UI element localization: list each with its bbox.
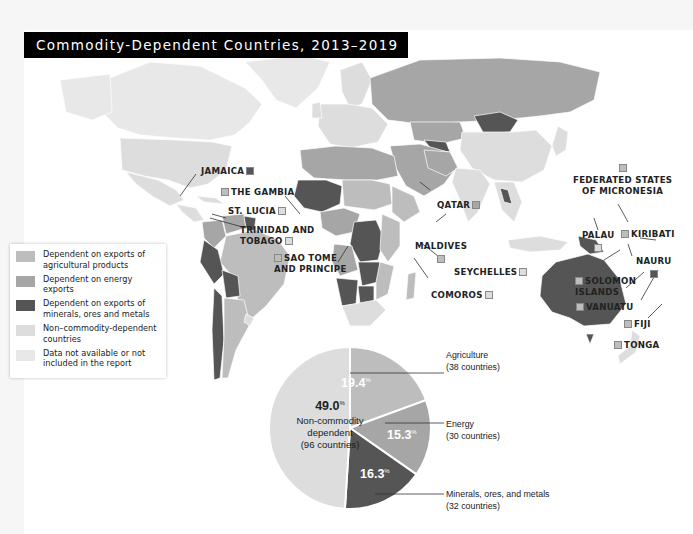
callout-text: ST. LUCIA xyxy=(228,206,276,216)
callout-text: KIRIBATI xyxy=(631,229,675,239)
callout-text: TRINIDAD ANDTOBAGO xyxy=(240,225,315,246)
category-swatch xyxy=(576,303,584,311)
legend-swatch xyxy=(16,325,35,336)
category-swatch xyxy=(278,207,286,215)
country-kazakhstan xyxy=(410,122,466,144)
callout-seychelles: SEYCHELLES xyxy=(454,267,527,278)
category-swatch xyxy=(519,268,527,276)
nc-line-3: (96 countries) xyxy=(301,439,360,450)
chart-title: Commodity-Dependent Countries, 2013–2019 xyxy=(24,32,408,58)
callout-st-lucia: ST. LUCIA xyxy=(228,206,286,217)
legend-label: Dependent on exports of minerals, ores a… xyxy=(43,298,160,319)
callout-leader-line xyxy=(628,244,632,256)
country-central-america xyxy=(176,204,204,222)
legend-item-agricultural: Dependent on exports of agricultural pro… xyxy=(16,249,160,270)
country-cuba xyxy=(196,196,224,204)
callout-comoros: COMOROS xyxy=(431,290,493,301)
country-peru xyxy=(200,240,224,284)
country-namibia xyxy=(336,278,358,306)
category-swatch xyxy=(472,201,480,209)
legend-item-non-commodity: Non–commodity-dependent countries xyxy=(16,323,160,344)
pie-pct-non-commodity: 49.0% xyxy=(290,397,370,412)
country-argentina xyxy=(222,298,250,378)
callout-leader-line xyxy=(618,204,628,222)
legend-item-minerals: Dependent on exports of minerals, ores a… xyxy=(16,298,160,319)
callout-text: SAO TOMEAND PRINCIPE xyxy=(274,253,347,274)
callout-text: THE GAMBIA xyxy=(231,187,295,197)
country-japan xyxy=(552,126,568,156)
callout-text: FIJI xyxy=(634,319,651,329)
callout-fiji: FIJI xyxy=(624,319,651,330)
callout-qatar: QATAR xyxy=(437,200,480,211)
legend-swatch xyxy=(16,276,35,287)
category-swatch xyxy=(285,237,293,245)
callout-nauru: NAURU xyxy=(636,256,672,278)
pie-callout-agriculture: Agriculture(38 countries) xyxy=(446,349,500,373)
country-drc xyxy=(350,220,384,262)
country-europe xyxy=(318,104,388,148)
category-swatch xyxy=(246,167,254,175)
country-north-africa xyxy=(300,146,398,180)
callout-text: JAMAICA xyxy=(201,166,244,176)
category-swatch xyxy=(594,244,602,252)
legend-item-no-data: Data not available or not included in th… xyxy=(16,348,160,369)
category-swatch xyxy=(650,270,658,278)
callout-kiribati: KIRIBATI xyxy=(621,229,675,240)
callout-text: TONGA xyxy=(624,340,660,350)
callout-maldives: MALDIVES xyxy=(415,241,467,263)
callout-text: SOLOMONISLANDS xyxy=(575,276,636,297)
callout-tonga: TONGA xyxy=(614,340,660,351)
pie-pct-agriculture: 19.4% xyxy=(341,376,371,390)
country-alaska xyxy=(60,74,112,120)
callout-trinidad-and-tobago: TRINIDAD ANDTOBAGO xyxy=(240,225,315,247)
country-tasmania xyxy=(586,334,594,344)
country-canada xyxy=(100,62,262,140)
legend-swatch xyxy=(16,251,35,262)
category-swatch xyxy=(621,230,629,238)
callout-text: FEDERATED STATESOF MICRONESIA xyxy=(573,175,672,196)
category-swatch xyxy=(614,341,622,349)
callout-text: COMOROS xyxy=(431,290,483,300)
category-swatch xyxy=(437,255,445,263)
legend-swatch xyxy=(16,300,35,311)
country-sahel xyxy=(342,180,392,210)
callout-solomon-islands: SOLOMONISLANDS xyxy=(575,276,636,298)
category-swatch xyxy=(221,188,229,196)
country-mozambique xyxy=(376,262,394,300)
category-swatch xyxy=(575,277,583,285)
pie-callout-energy: Energy(30 countries) xyxy=(446,418,500,442)
legend-label: Non–commodity-dependent countries xyxy=(43,323,160,344)
callout-federated-states-of-micronesia: FEDERATED STATESOF MICRONESIA xyxy=(573,164,672,197)
callout-text: QATAR xyxy=(437,200,470,210)
callout-text: NAURU xyxy=(636,256,672,266)
country-scandinavia xyxy=(340,62,372,108)
callout-text: MALDIVES xyxy=(415,241,467,251)
country-india xyxy=(452,168,490,222)
legend-label: Dependent on energy exports xyxy=(43,274,160,295)
pie-pct-energy: 15.3% xyxy=(387,428,417,442)
callout-palau: PALAU xyxy=(582,230,615,252)
callout-leader-line xyxy=(436,214,446,222)
country-madagascar xyxy=(406,272,416,300)
callout-vanuatu: VANUATU xyxy=(576,302,634,313)
country-east-africa xyxy=(380,214,400,262)
category-swatch xyxy=(274,254,282,262)
legend-label: Data not available or not included in th… xyxy=(43,348,160,369)
country-indonesia xyxy=(508,236,568,252)
country-chile xyxy=(212,288,224,380)
legend-item-energy: Dependent on energy exports xyxy=(16,274,160,295)
pie-label-non-commodity: 49.0% Non-commodity dependent (96 countr… xyxy=(290,397,370,451)
callout-leader-line xyxy=(594,218,598,230)
callout-jamaica: JAMAICA xyxy=(201,166,254,177)
callout-sao-tome-and-principe: SAO TOMEAND PRINCIPE xyxy=(274,253,347,275)
nc-line-1: Non-commodity xyxy=(296,415,363,426)
country-uk xyxy=(312,102,322,118)
legend-swatch xyxy=(16,350,35,361)
callout-text: SEYCHELLES xyxy=(454,267,517,277)
map-legend: Dependent on exports of agricultural pro… xyxy=(10,244,166,378)
category-swatch xyxy=(624,320,632,328)
legend-label: Dependent on exports of agricultural pro… xyxy=(43,249,160,270)
country-west-africa-min xyxy=(294,180,342,212)
callout-the-gambia: THE GAMBIA xyxy=(221,187,295,198)
callout-text: PALAU xyxy=(582,230,615,240)
